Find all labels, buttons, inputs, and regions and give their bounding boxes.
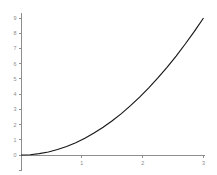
y-axis-tick-label: 7 (14, 45, 17, 51)
y-axis-tick-label: 0 (14, 152, 17, 158)
y-axis-tick-label: 3 (14, 106, 17, 112)
y-axis-tick-label: 8 (14, 30, 17, 36)
x-axis-tick-label: 2 (141, 160, 144, 166)
plot-area: 0123456789 123 (0, 0, 217, 175)
y-axis-tick-label: 4 (14, 91, 17, 97)
x-axis-tick-label: 3 (202, 160, 205, 166)
y-axis-tick-label: 5 (14, 76, 17, 82)
y-axis-tick-label: 1 (14, 137, 17, 143)
chart-canvas: 0123456789 123 (0, 0, 217, 175)
y-axis-tick-label: 2 (14, 122, 17, 128)
x-axis-tick-label: 1 (80, 160, 83, 166)
chart-background (0, 0, 217, 175)
y-axis-tick-label: 6 (14, 61, 17, 67)
y-axis-tick-label: 9 (14, 15, 17, 21)
